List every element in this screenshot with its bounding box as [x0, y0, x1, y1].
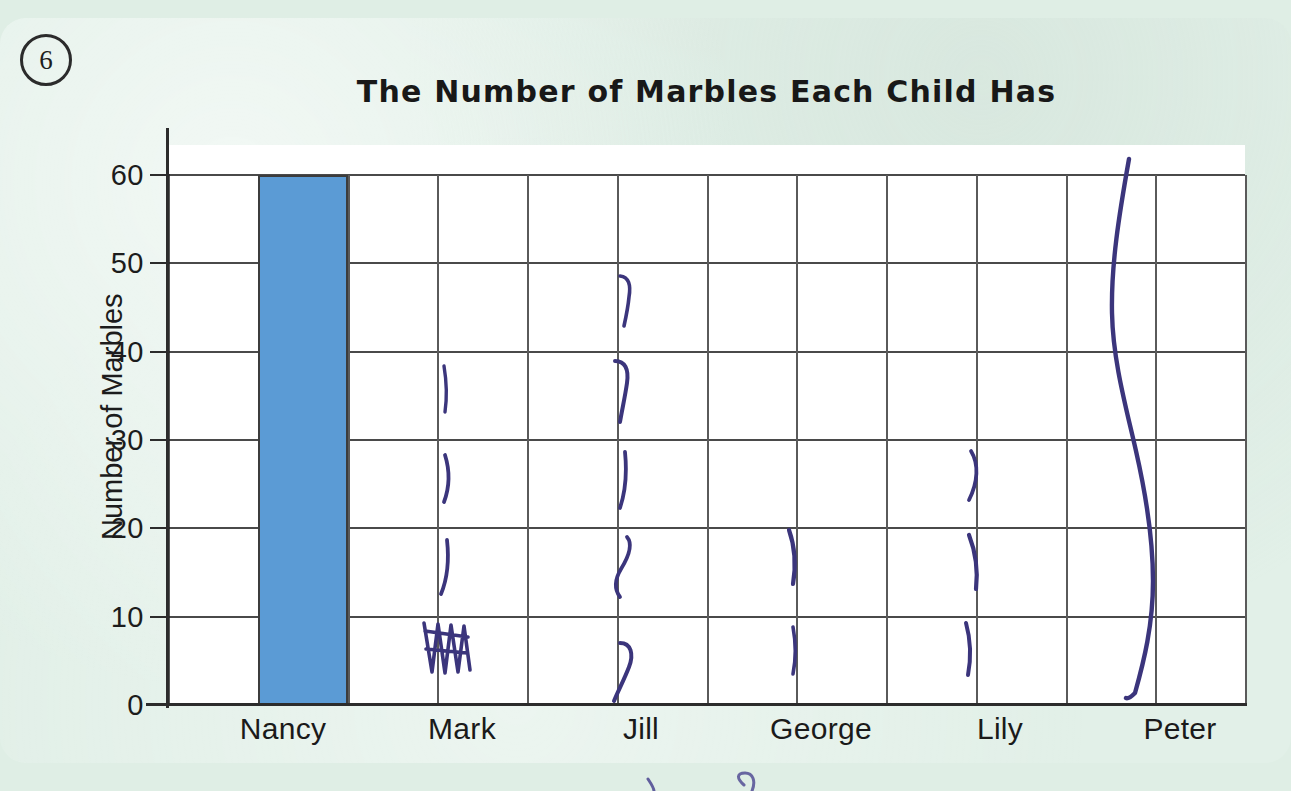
gridline-x-7 — [796, 175, 798, 705]
y-tick-mark-30 — [150, 439, 170, 441]
x-axis-label-peter: Peter — [1090, 712, 1270, 746]
x-axis-label-mark: Mark — [372, 712, 552, 746]
chart-title: The Number of Marbles Each Child Has — [168, 74, 1245, 109]
gridline-x-10 — [1066, 175, 1068, 705]
gridline-x-4 — [527, 175, 529, 705]
ink-fragment-2 — [738, 773, 753, 791]
y-tick-mark-20 — [150, 527, 170, 529]
question-number-text: 6 — [39, 45, 53, 76]
x-axis-label-nancy: Nancy — [193, 712, 373, 746]
gridline-x-9 — [976, 175, 978, 705]
gridline-x-12 — [1245, 175, 1247, 705]
y-tick-mark-10 — [150, 616, 170, 618]
ink-fragment-1 — [648, 779, 654, 791]
y-axis-title: Number of Marbles — [96, 293, 129, 540]
y-tick-label-10: 10 — [58, 600, 144, 633]
y-tick-label-0: 0 — [58, 689, 144, 722]
x-axis-line — [146, 703, 1247, 706]
gridline-x-6 — [707, 175, 709, 705]
y-tick-mark-60 — [150, 174, 170, 176]
y-axis-line — [166, 128, 169, 708]
chart-plot-area — [168, 145, 1245, 705]
x-axis-label-lily: Lily — [910, 712, 1090, 746]
x-axis-label-george: George — [731, 712, 911, 746]
gridline-x-2 — [348, 175, 350, 705]
x-axis-label-jill: Jill — [551, 712, 731, 746]
y-tick-mark-50 — [150, 262, 170, 264]
gridline-x-8 — [886, 175, 888, 705]
y-tick-label-60: 60 — [58, 159, 144, 192]
y-tick-label-50: 50 — [58, 247, 144, 280]
gridline-x-5 — [617, 175, 619, 705]
gridline-x-3 — [437, 175, 439, 705]
y-tick-mark-0 — [150, 704, 170, 706]
y-tick-mark-40 — [150, 351, 170, 353]
question-number-badge: 6 — [20, 34, 72, 86]
bar-nancy — [258, 175, 348, 705]
gridline-x-11 — [1155, 175, 1157, 705]
